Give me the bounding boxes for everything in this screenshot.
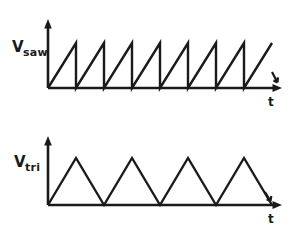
triangle-x-axis-label: t xyxy=(268,212,274,226)
waveform-figure: V saw t V tri t xyxy=(0,0,295,231)
figure-background xyxy=(0,0,295,231)
sawtooth-y-label-subscript: saw xyxy=(23,46,48,59)
triangle-y-label-subscript: tri xyxy=(25,161,40,174)
sawtooth-x-axis-label: t xyxy=(268,95,274,109)
